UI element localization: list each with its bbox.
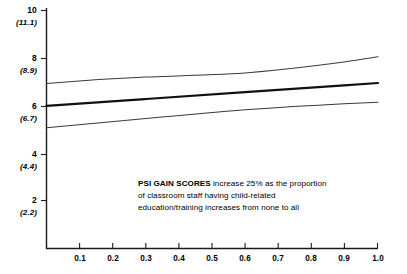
x-tick-label-0-1: 0.1 [65,255,95,263]
y-tick-label-secondary-6-7: (6.7) [0,115,37,123]
x-axis-ticks [80,243,378,249]
chart-plot-area [0,0,407,274]
x-tick-label-0-8: 0.8 [296,255,326,263]
y-tick-label-secondary-8-9: (8.9) [0,67,37,75]
chart-container: 10 (11.1) 8 (8.9) 6 (6.7) 4 (4.4) 2 (2.2… [0,0,407,274]
y-tick-label-primary-10: 10 [0,6,37,15]
x-tick-label-0-7: 0.7 [263,255,293,263]
upper-confidence-band [47,57,379,84]
y-tick-label-primary-4: 4 [0,150,37,159]
y-tick-label-secondary-2-2: (2.2) [0,209,37,217]
x-tick-label-0-2: 0.2 [98,255,128,263]
y-tick-label-secondary-4-4: (4.4) [0,163,37,171]
fitted-regression-line [47,83,379,106]
x-tick-label-0-3: 0.3 [131,255,161,263]
x-tick-label-0-6: 0.6 [230,255,260,263]
chart-annotation: PSI GAIN SCORES increase 25% as the prop… [138,178,334,215]
annotation-lead-text: PSI GAIN SCORES [138,179,211,188]
y-tick-label-primary-6: 6 [0,102,37,111]
lower-confidence-band [47,102,379,128]
x-tick-label-0-9: 0.9 [329,255,359,263]
y-tick-label-primary-8: 8 [0,54,37,63]
y-tick-label-secondary-11-1: (11.1) [0,19,37,27]
x-tick-label-0-5: 0.5 [197,255,227,263]
x-tick-label-1-0: 1.0 [363,255,393,263]
y-tick-label-primary-2: 2 [0,196,37,205]
x-tick-label-0-4: 0.4 [164,255,194,263]
